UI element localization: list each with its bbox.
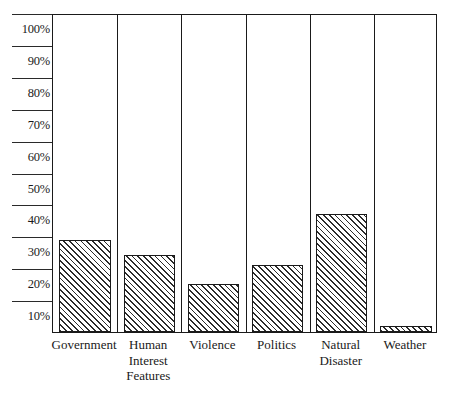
y-axis-tick <box>12 237 56 238</box>
bar-chart: 100%90%80%70%60%50%40%30%20%10% Governme… <box>0 0 449 405</box>
y-axis-tick <box>12 205 56 206</box>
y-axis-tick-label: 60% <box>6 151 50 164</box>
x-axis-label: Weather <box>367 337 443 353</box>
y-axis-tick-label: 80% <box>6 87 50 100</box>
x-axis-label-line: Weather <box>367 337 443 353</box>
x-axis-label-line: Disaster <box>303 353 379 369</box>
y-axis-tick <box>12 46 56 47</box>
y-axis-tick-label: 40% <box>6 214 50 227</box>
column-divider <box>117 15 118 332</box>
column-divider <box>181 15 182 332</box>
y-axis-tick-label: 30% <box>6 246 50 259</box>
y-axis-tick <box>12 301 56 302</box>
bar <box>252 265 303 332</box>
plot-area <box>52 14 437 333</box>
y-axis-tick <box>12 269 56 270</box>
y-axis: 100%90%80%70%60%50%40%30%20%10% <box>4 0 50 405</box>
y-axis-tick <box>12 174 56 175</box>
x-axis-label-line: Features <box>110 368 186 384</box>
y-axis-tick-label: 50% <box>6 183 50 196</box>
y-axis-tick <box>12 78 56 79</box>
x-axis-label-line: Interest <box>110 353 186 369</box>
column-divider <box>374 15 375 332</box>
column-divider <box>310 15 311 332</box>
column-divider <box>246 15 247 332</box>
y-axis-tick-label: 20% <box>6 278 50 291</box>
y-axis-tick-label: 100% <box>6 23 50 36</box>
bar <box>59 240 110 333</box>
y-axis-tick-label: 90% <box>6 55 50 68</box>
y-axis-tick-label: 70% <box>6 119 50 132</box>
bar <box>380 326 431 332</box>
y-axis-tick <box>12 142 56 143</box>
bar <box>124 255 175 332</box>
bar <box>316 214 367 332</box>
y-axis-tick <box>12 110 56 111</box>
y-axis-tick <box>12 14 56 15</box>
bar <box>188 284 239 332</box>
x-axis-labels: GovernmentHumanInterestFeaturesViolenceP… <box>52 337 437 405</box>
y-axis-tick-label: 10% <box>6 310 50 323</box>
